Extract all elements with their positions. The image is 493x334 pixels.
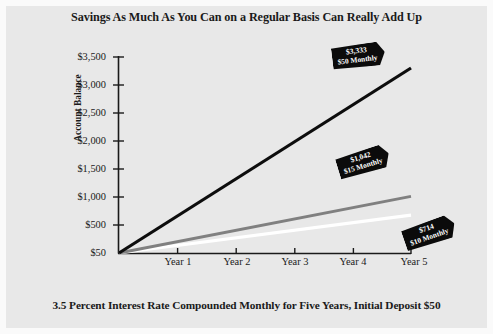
chart-subtitle: 3.5 Percent Interest Rate Compounded Mon… [0, 299, 493, 311]
plot-area [0, 0, 493, 334]
series-line-10-monthly [119, 215, 411, 253]
chart-figure: Savings As Much As You Can on a Regular … [0, 0, 493, 334]
